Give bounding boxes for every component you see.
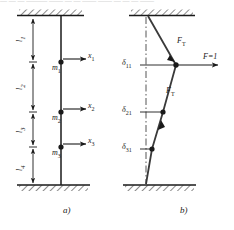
label-m2: m2	[52, 113, 61, 124]
label-l4: l4	[15, 166, 26, 172]
panel-b-bottom-support	[123, 185, 196, 191]
panel-b-top-support	[129, 10, 195, 16]
label-delta21: δ21	[122, 105, 132, 116]
label-l3: l3	[15, 128, 26, 134]
panel-a-bottom-support	[17, 185, 90, 191]
caption-panel-a: a)	[63, 205, 71, 215]
label-delta31: δ31	[122, 142, 132, 153]
label-m1: m1	[52, 63, 61, 74]
bottom-support-hatch-a	[19, 185, 88, 191]
label-x3: x3	[88, 136, 95, 147]
top-support-hatch-b	[131, 10, 193, 16]
dimension-chain-a	[29, 19, 37, 183]
label-l1: l1	[15, 37, 26, 43]
top-support-hatch	[19, 10, 82, 16]
panel-b	[123, 10, 218, 192]
label-l2: l2	[15, 85, 26, 91]
panel-a	[17, 10, 90, 192]
label-delta11: δ11	[122, 58, 132, 69]
engineering-figure	[0, 0, 234, 230]
label-unit-force: F=1	[203, 52, 217, 61]
caption-panel-b: b)	[180, 205, 188, 215]
label-x2: x2	[88, 101, 95, 112]
label-FT-lower: FT	[166, 86, 175, 97]
panel-a-top-support	[17, 10, 84, 16]
label-x1: x1	[88, 51, 95, 62]
bottom-support-hatch-b	[125, 185, 194, 191]
deflected-shape	[146, 16, 176, 184]
label-m3: m3	[52, 148, 61, 159]
label-FT-upper: FT	[177, 36, 186, 47]
